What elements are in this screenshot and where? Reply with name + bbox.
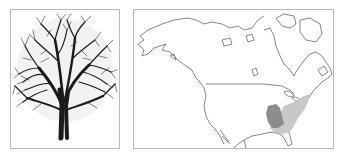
primary-range-area xyxy=(266,104,284,128)
north-america-map xyxy=(134,10,333,148)
range-map-panel: Native range map xyxy=(133,9,334,149)
tree-silhouette-icon xyxy=(11,10,119,148)
tree-illustration-panel: Tree silhouette xyxy=(10,9,120,149)
